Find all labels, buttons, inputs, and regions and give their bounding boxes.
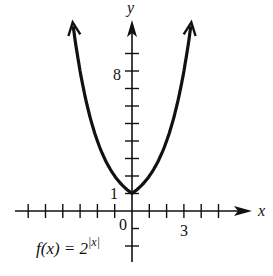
function-label: f(x) = 2|x| <box>36 235 100 258</box>
x-axis-label: x <box>257 202 265 219</box>
y-tick-label-1: 1 <box>110 185 118 202</box>
function-label-base: f(x) = 2 <box>36 239 89 258</box>
axes <box>15 20 252 262</box>
function-label-exponent: |x| <box>88 235 100 249</box>
y-axis-label: y <box>125 0 135 17</box>
x-tick-label-3: 3 <box>180 222 188 239</box>
y-tick-label-8: 8 <box>113 66 121 83</box>
function-graph: y x 8 1 0 3 f(x) = 2|x| <box>0 0 273 276</box>
origin-label: 0 <box>119 216 127 233</box>
